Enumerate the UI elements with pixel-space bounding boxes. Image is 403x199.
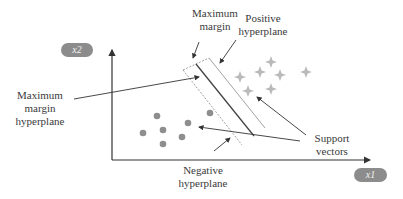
y-axis-label: x2 [61,43,93,57]
circle-icon [179,134,186,141]
star-icon [300,66,312,78]
circle-icon [207,110,214,117]
star-icon [265,83,277,95]
circle-icon [160,141,167,148]
circle-icon [160,127,167,134]
label-line: margin [4,102,76,115]
positive-class-points [234,56,312,97]
star-icon [265,56,277,68]
circle-icon [140,130,147,137]
arrow-support-vector-negative [199,127,300,141]
label-line: Negative [168,164,238,177]
x-axis-label: x1 [354,168,387,182]
label-line: vectors [303,145,361,158]
negative-hyperplane-line [183,70,242,145]
circle-icon [154,113,161,120]
arrow-max-margin-hyperplane [74,77,199,99]
arrow-max-margin [193,42,199,58]
star-icon [234,71,246,83]
label-line: Positive [228,12,298,25]
label-line: Maximum [4,89,76,102]
label-positive-hyperplane: Positive hyperplane [228,12,298,38]
label-maximum-margin-hyperplane: Maximum margin hyperplane [4,89,76,128]
circle-icon [185,120,192,127]
positive-hyperplane-line [209,58,265,128]
label-line: hyperplane [4,115,76,128]
max-margin-hyperplane-line [196,64,254,136]
star-icon [274,69,286,81]
label-line: hyperplane [228,25,298,38]
star-icon [254,66,266,78]
label-line: Support [303,132,361,145]
label-line: hyperplane [168,177,238,190]
margin-band [183,58,265,145]
arrow-negative-hyperplane [214,138,230,151]
arrow-positive-hyperplane [220,40,236,63]
negative-class-points [140,110,214,148]
label-support-vectors: Support vectors [303,132,361,158]
label-negative-hyperplane: Negative hyperplane [168,164,238,190]
arrow-support-vector-positive [257,97,306,135]
star-icon [242,85,254,97]
